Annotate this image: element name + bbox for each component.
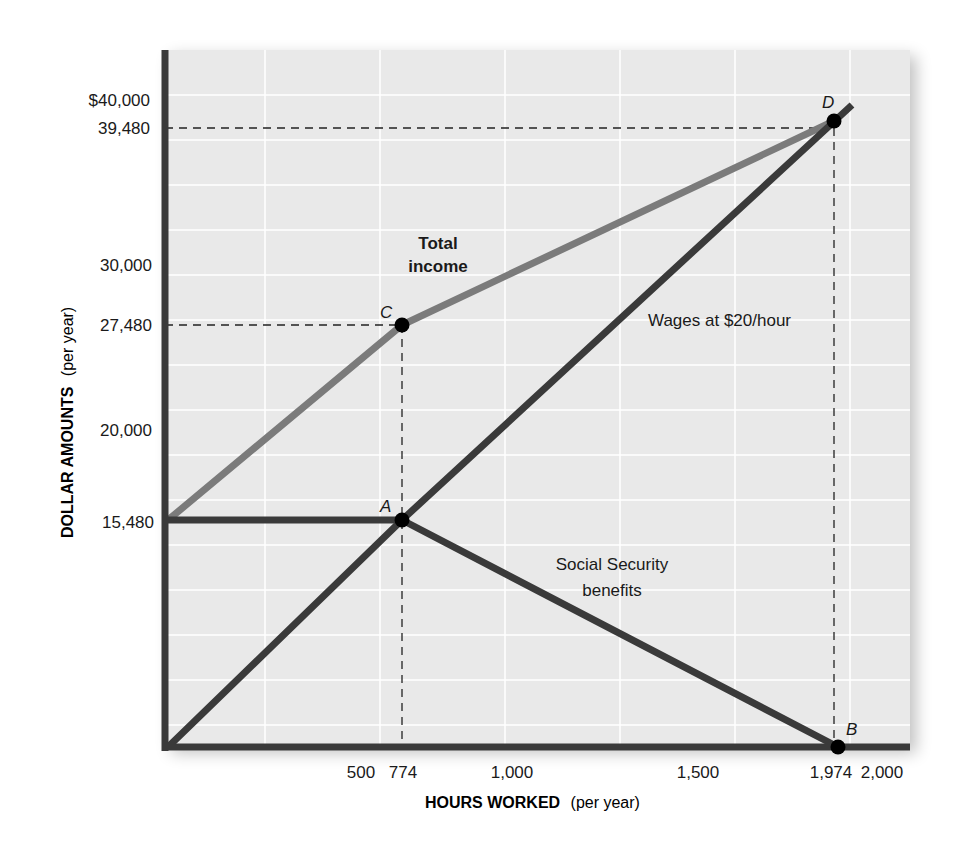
point-label-a: A	[379, 497, 391, 516]
x-tick-2000: 2,000	[861, 763, 904, 782]
y-tick-15480: 15,480	[102, 513, 154, 532]
chart-svg: C A D B Total income Wages at $20/hour S…	[0, 0, 970, 843]
x-tick-774: 774	[389, 763, 417, 782]
point-label-b: B	[846, 720, 857, 739]
point-label-c: C	[380, 303, 393, 322]
annotation-total-income-2: income	[408, 257, 468, 276]
x-axis-title-main: HOURS WORKED	[425, 794, 560, 811]
y-tick-30000: 30,000	[100, 256, 152, 275]
y-axis-title-unit: (per year)	[59, 307, 76, 376]
x-tick-1500: 1,500	[677, 763, 720, 782]
x-tick-500: 500	[347, 763, 375, 782]
y-tick-39480: 39,480	[98, 119, 150, 138]
y-axis-title-main: DOLLAR AMOUNTS	[59, 386, 76, 538]
x-axis-title-unit: (per year)	[571, 794, 640, 811]
annotation-total-income-1: Total	[418, 234, 457, 253]
x-tick-labels: 500 774 1,000 1,500 1,974 2,000	[347, 763, 903, 782]
point-d	[827, 114, 842, 129]
y-axis-title: DOLLAR AMOUNTS (per year)	[59, 307, 76, 538]
y-tick-40000: $40,000	[89, 91, 150, 110]
x-tick-1000: 1,000	[491, 763, 534, 782]
y-tick-27480: 27,480	[100, 316, 152, 335]
y-tick-20000: 20,000	[100, 421, 152, 440]
annotation-ss-1: Social Security	[556, 555, 669, 574]
annotation-ss-2: benefits	[582, 581, 642, 600]
point-label-d: D	[822, 93, 834, 112]
x-tick-1974: 1,974	[810, 763, 853, 782]
x-axis-title: HOURS WORKED (per year)	[425, 794, 640, 811]
point-a	[395, 513, 410, 528]
annotation-wages: Wages at $20/hour	[648, 311, 791, 330]
point-c	[395, 318, 410, 333]
y-tick-labels: $40,000 39,480 30,000 27,480 20,000 15,4…	[89, 91, 154, 532]
point-b	[831, 740, 846, 755]
